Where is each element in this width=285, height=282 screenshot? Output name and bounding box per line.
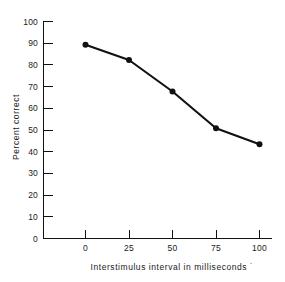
y-tick-label: 80 — [28, 60, 38, 70]
line-chart: 100 90 80 70 60 50 40 30 20 10 0 0 25 50… — [0, 0, 285, 282]
data-point — [213, 125, 219, 131]
data-point — [170, 89, 176, 95]
y-tick-label: 70 — [28, 82, 38, 92]
x-axis-title: Interstimulus interval in milliseconds ˙ — [91, 262, 254, 272]
y-tick-label: 90 — [28, 38, 38, 48]
x-tick-label: 0 — [83, 243, 88, 253]
y-tick-label: 50 — [28, 125, 38, 135]
y-tick-label: 10 — [28, 212, 38, 222]
x-tick-label: 75 — [211, 243, 221, 253]
data-point — [257, 141, 263, 147]
y-tick-label: 0 — [33, 234, 38, 244]
x-axis-tick-labels: 0 25 50 75 100 — [83, 243, 267, 253]
y-tick-label: 40 — [28, 147, 38, 157]
y-tick-label: 100 — [23, 17, 38, 27]
data-series-line — [86, 45, 260, 145]
y-axis-title: Percent correct — [11, 94, 21, 160]
figure-container: 100 90 80 70 60 50 40 30 20 10 0 0 25 50… — [0, 0, 285, 282]
x-tick-label: 25 — [124, 243, 134, 253]
y-tick-label: 20 — [28, 190, 38, 200]
x-axis-ticks — [86, 230, 260, 238]
y-axis-ticks — [44, 22, 53, 217]
data-point — [83, 42, 89, 48]
y-axis-tick-labels: 100 90 80 70 60 50 40 30 20 10 0 — [23, 17, 38, 244]
x-tick-label: 100 — [252, 243, 267, 253]
data-point — [126, 57, 132, 63]
y-tick-label: 30 — [28, 168, 38, 178]
y-tick-label: 60 — [28, 103, 38, 113]
data-points — [83, 42, 263, 148]
x-tick-label: 50 — [168, 243, 178, 253]
